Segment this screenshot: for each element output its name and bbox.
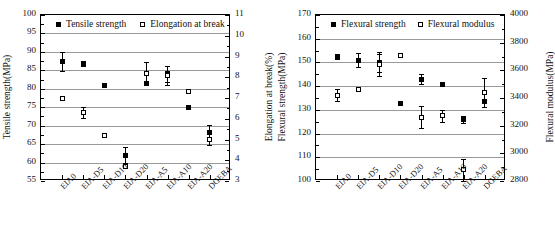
- gridline: [316, 62, 504, 63]
- y-axis-tick-left: [41, 15, 45, 16]
- y-axis-title-left: Flexural strength(MPa): [277, 53, 287, 142]
- data-point[interactable]: [123, 153, 128, 158]
- legend-item[interactable]: Elongation at break: [140, 19, 224, 29]
- gridline: [41, 89, 229, 90]
- data-point[interactable]: [186, 105, 191, 110]
- y-axis-tick-label-left: 170: [285, 9, 311, 18]
- y-axis-tick-label-left: 75: [10, 101, 36, 110]
- y-axis-tick-label-left: 80: [10, 83, 36, 92]
- y-axis-tick-left: [316, 134, 320, 135]
- y-axis-tick-label-right: 7: [235, 92, 240, 101]
- error-bar-cap: [440, 122, 445, 123]
- data-point[interactable]: [335, 54, 340, 59]
- y-axis-minor-tick-left: [316, 98, 319, 99]
- y-axis-tick-left: [316, 86, 320, 87]
- data-point[interactable]: [207, 137, 212, 142]
- error-bar-cap: [482, 78, 487, 79]
- data-point[interactable]: [356, 58, 361, 63]
- y-axis-tick-left: [316, 157, 320, 158]
- y-axis-tick-label-right: 10: [235, 30, 244, 39]
- data-point[interactable]: [377, 62, 382, 67]
- y-axis-minor-tick-left: [41, 43, 44, 44]
- data-point[interactable]: [60, 96, 65, 101]
- gridline: [316, 157, 504, 158]
- data-point[interactable]: [186, 89, 191, 94]
- y-axis-minor-tick-right: [502, 140, 505, 141]
- y-axis-minor-tick-right: [227, 150, 230, 151]
- y-axis-tick-right: [225, 181, 229, 182]
- data-point[interactable]: [356, 87, 361, 92]
- legend-item[interactable]: Flexural modulus: [418, 19, 495, 29]
- legend-label: Tensile strength: [66, 19, 126, 29]
- plot-area: [40, 14, 230, 180]
- data-point[interactable]: [419, 77, 424, 82]
- error-bar-cap: [144, 62, 149, 63]
- error-bar-cap: [377, 76, 382, 77]
- data-point[interactable]: [102, 83, 107, 88]
- data-point[interactable]: [144, 71, 149, 76]
- y-axis-tick-left: [41, 126, 45, 127]
- y-axis-minor-tick-left: [316, 27, 319, 28]
- gridline: [41, 126, 229, 127]
- data-point[interactable]: [440, 82, 445, 87]
- legend-item[interactable]: Tensile strength: [56, 19, 126, 29]
- y-axis-tick-left: [41, 144, 45, 145]
- data-point[interactable]: [165, 73, 170, 78]
- data-point[interactable]: [81, 61, 86, 66]
- legend-label: Elongation at break: [150, 19, 224, 29]
- y-axis-tick-right: [500, 181, 504, 182]
- y-axis-tick-label-left: 60: [10, 157, 36, 166]
- gridline: [41, 52, 229, 53]
- panel-right: 1001101201301401501601702800300032003400…: [273, 0, 546, 225]
- error-bar-cap: [461, 123, 466, 124]
- y-axis-minor-tick-right: [227, 46, 230, 47]
- y-axis-minor-tick-left: [316, 74, 319, 75]
- gridline: [41, 107, 229, 108]
- data-point[interactable]: [81, 110, 86, 115]
- y-axis-title-right: Flexural modulus(MPa): [545, 51, 555, 142]
- y-axis-minor-tick-right: [502, 112, 505, 113]
- error-bar-cap: [440, 110, 445, 111]
- data-point[interactable]: [482, 90, 487, 95]
- data-point[interactable]: [419, 115, 424, 120]
- data-point[interactable]: [440, 113, 445, 118]
- y-axis-minor-tick-right: [227, 108, 230, 109]
- y-axis-tick-label-left: 100: [10, 9, 36, 18]
- error-bar-cap: [356, 67, 361, 68]
- y-axis-minor-tick-right: [227, 25, 230, 26]
- y-axis-tick-left: [41, 52, 45, 53]
- data-point[interactable]: [60, 59, 65, 64]
- y-axis-tick-label-left: 110: [285, 151, 311, 160]
- y-axis-tick-right: [225, 98, 229, 99]
- y-axis-tick-label-right: 9: [235, 51, 240, 60]
- data-point[interactable]: [461, 117, 466, 122]
- y-axis-tick-right: [225, 160, 229, 161]
- y-axis-tick-label-left: 90: [10, 46, 36, 55]
- y-axis-minor-tick-left: [41, 61, 44, 62]
- chart-legend: Flexural strengthFlexural modulus: [331, 19, 494, 29]
- error-bar-cap: [335, 59, 340, 60]
- data-point[interactable]: [398, 53, 403, 58]
- y-axis-minor-tick-left: [316, 51, 319, 52]
- error-bar-cap: [165, 85, 170, 86]
- error-bar-cap: [377, 54, 382, 55]
- filled-square-marker-icon: [56, 22, 61, 27]
- data-point[interactable]: [102, 133, 107, 138]
- y-axis-minor-tick-left: [41, 116, 44, 117]
- error-bar-cap: [207, 145, 212, 146]
- y-axis-tick-right: [500, 126, 504, 127]
- data-point[interactable]: [398, 101, 403, 106]
- y-axis-minor-tick-right: [227, 67, 230, 68]
- error-bar-cap: [335, 89, 340, 90]
- y-axis-minor-tick-left: [41, 153, 44, 154]
- legend-item[interactable]: Flexural strength: [331, 19, 406, 29]
- y-axis-tick-label-left: 120: [285, 128, 311, 137]
- error-bar-cap: [81, 107, 86, 108]
- y-axis-tick-right: [225, 36, 229, 37]
- y-axis-tick-label-right: 3400: [510, 92, 528, 101]
- data-point[interactable]: [335, 93, 340, 98]
- y-axis-tick-label-right: 8: [235, 71, 240, 80]
- y-axis-minor-tick-left: [41, 80, 44, 81]
- error-bar-cap: [461, 159, 466, 160]
